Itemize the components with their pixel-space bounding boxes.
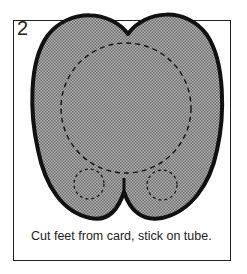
step-number: 2 [17, 18, 28, 38]
instruction-caption: Cut feet from card, stick on tube. [31, 228, 226, 244]
feet-shape [32, 15, 222, 219]
